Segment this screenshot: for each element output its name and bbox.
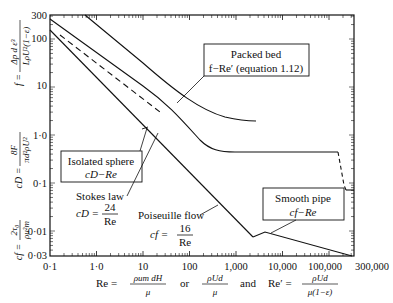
svg-text:or: or: [180, 277, 190, 289]
svg-text:100: 100: [31, 33, 47, 44]
packed-bed-pointer: [177, 76, 204, 103]
friction-chart: 300 100 10 1·0 0·1 0·01 0·03 0·1 1·0 10 …: [0, 0, 393, 303]
poiseuille-title: Poiseuille flow: [138, 209, 204, 221]
svg-text:0·1: 0·1: [43, 261, 57, 272]
svg-text:1·0: 1·0: [33, 130, 47, 141]
svg-text:ρUd: ρUd: [311, 273, 328, 283]
sphere-pointer: [140, 128, 147, 151]
stokes-title: Stokes law: [76, 190, 124, 202]
stokes-den: Re: [104, 215, 116, 227]
svg-text:cD =: cD =: [13, 168, 24, 189]
packed-bed-subtitle: f−Re′ (equation 1.12): [209, 62, 304, 75]
sphere-title: Isolated sphere: [68, 155, 134, 167]
smooth-pipe-curve: [253, 232, 352, 256]
svg-text:Re =: Re =: [96, 277, 117, 289]
svg-text:100: 100: [182, 261, 198, 272]
svg-text:100,000: 100,000: [308, 261, 342, 272]
svg-text:ρu²m: ρu²m: [21, 220, 31, 240]
stokes-eq: cD =: [76, 207, 99, 219]
poiseuille-eq: cf =: [150, 228, 168, 240]
x-axis-label: Re = ρum dH μ or ρUd μ and Re′ = ρUd μ(1…: [96, 273, 338, 297]
svg-text:μ: μ: [145, 287, 151, 297]
svg-text:ρum dH: ρum dH: [133, 273, 163, 283]
svg-text:0·03: 0·03: [28, 250, 47, 261]
svg-text:ρUd: ρUd: [206, 273, 223, 283]
sphere-subtitle: cD−Re: [85, 168, 117, 180]
svg-text:10: 10: [37, 80, 48, 91]
y-axis-labels: f = Δp d ε³ LρU²(1−ε) cD = 8F πd²ρU² cf …: [9, 20, 31, 260]
smooth-pipe-pointer: [271, 220, 296, 233]
sphere-drop-dashed: [338, 152, 346, 190]
svg-text:8F: 8F: [9, 145, 19, 156]
svg-text:2τ₀: 2τ₀: [9, 225, 19, 236]
svg-text:1·0: 1·0: [90, 261, 104, 272]
packed-bed-title: Packed bed: [231, 48, 282, 60]
smooth-pipe-subtitle: cf−Re: [290, 206, 317, 218]
svg-text:LρU²(1−ε): LρU²(1−ε): [21, 27, 31, 67]
svg-text:f =: f =: [13, 74, 24, 86]
poiseuille-den: Re: [179, 236, 191, 248]
svg-text:10,000: 10,000: [268, 261, 297, 272]
svg-text:0·1: 0·1: [33, 178, 47, 189]
svg-text:cf =: cf =: [13, 244, 24, 260]
svg-text:10: 10: [138, 261, 149, 272]
smooth-pipe-title: Smooth pipe: [275, 192, 331, 204]
x-tick-labels: 0·1 1·0 10 100 1,000 10,000 100,000 300,…: [43, 261, 389, 272]
stokes-law-line: [60, 35, 160, 112]
svg-text:300,000: 300,000: [355, 261, 389, 272]
svg-text:1,000: 1,000: [224, 261, 248, 272]
svg-text:μ(1−ε): μ(1−ε): [307, 287, 333, 297]
svg-text:πd²ρU²: πd²ρU²: [21, 137, 31, 163]
svg-text:Re′ =: Re′ =: [268, 277, 292, 289]
svg-text:μ: μ: [212, 287, 218, 297]
svg-text:300: 300: [31, 10, 47, 21]
svg-text:Δp d ε³: Δp d ε³: [9, 39, 19, 65]
poiseuille-num: 16: [180, 222, 192, 234]
stokes-num: 24: [105, 201, 117, 213]
svg-text:and: and: [240, 277, 256, 289]
